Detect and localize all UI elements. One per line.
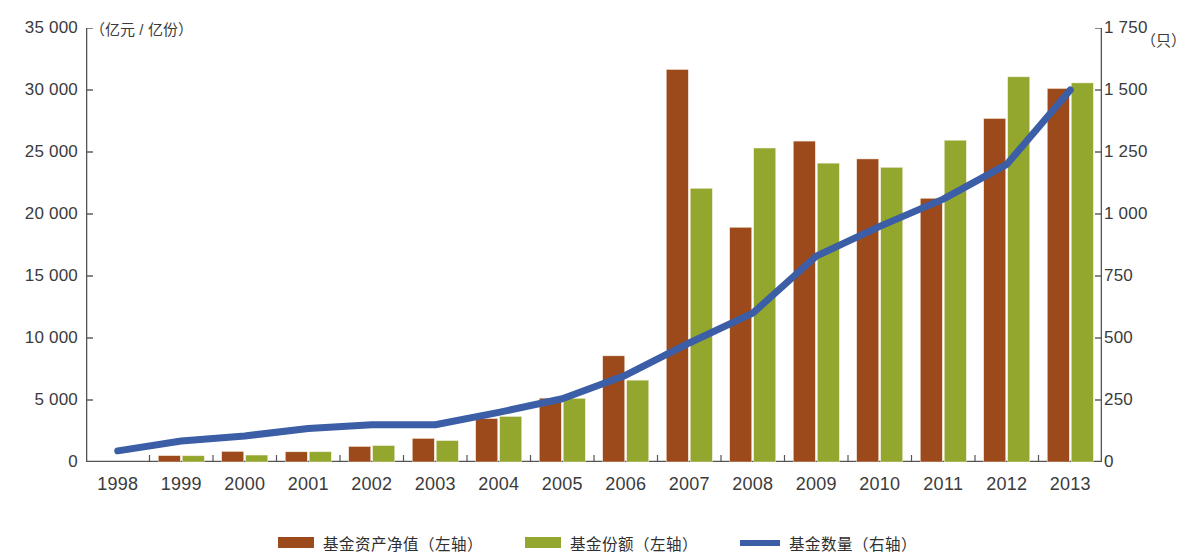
bar-基金份额-2005 <box>563 398 585 462</box>
legend-swatch-bar-icon <box>278 537 314 548</box>
x-label-2006: 2006 <box>605 474 646 495</box>
x-label-2013: 2013 <box>1050 474 1091 495</box>
left-tick-7: 35 000 <box>25 18 78 38</box>
x-label-2002: 2002 <box>351 474 392 495</box>
bar-基金资产净值-2001 <box>285 452 307 462</box>
bar-基金份额-2010 <box>881 167 903 462</box>
bar-基金资产净值-2006 <box>603 356 625 462</box>
left-tick-3: 15 000 <box>25 266 78 286</box>
bar-series-1 <box>182 77 1093 462</box>
legend-label-0: 基金资产净值（左轴） <box>323 532 483 554</box>
bar-基金资产净值-2003 <box>412 438 434 462</box>
legend-swatch-bar-icon <box>525 537 561 548</box>
chart-legend: 基金资产净值（左轴）基金份额（左轴）基金数量（右轴） <box>0 530 1194 555</box>
right-tick-3: 750 <box>1104 266 1133 286</box>
left-tick-1: 5 000 <box>34 390 78 410</box>
bar-基金份额-1999 <box>182 456 204 462</box>
x-label-2007: 2007 <box>669 474 710 495</box>
fund-industry-chart: （亿元 / 亿份） （只） 05 00010 00015 00020 00025… <box>0 0 1194 555</box>
right-tick-5: 1 250 <box>1104 142 1148 162</box>
x-label-2008: 2008 <box>732 474 773 495</box>
bar-基金资产净值-1999 <box>158 456 180 462</box>
legend-item-1[interactable]: 基金份额（左轴） <box>525 532 698 554</box>
bar-基金份额-2007 <box>690 188 712 462</box>
plot-svg <box>86 28 1102 462</box>
bar-series-0 <box>158 70 1069 462</box>
right-tick-7: 1 750 <box>1104 18 1148 38</box>
x-label-2005: 2005 <box>542 474 583 495</box>
right-axis-unit-label: （只） <box>1141 29 1186 50</box>
x-label-1998: 1998 <box>97 474 138 495</box>
bar-基金资产净值-2007 <box>666 70 688 462</box>
legend-swatch-line-icon <box>740 540 780 546</box>
bar-基金资产净值-2009 <box>793 141 815 462</box>
bar-基金份额-2004 <box>500 416 522 462</box>
left-tick-4: 20 000 <box>25 204 78 224</box>
bar-基金资产净值-2010 <box>857 159 879 462</box>
bar-基金份额-2003 <box>436 441 458 462</box>
legend-item-2[interactable]: 基金数量（右轴） <box>740 532 917 554</box>
x-label-2010: 2010 <box>859 474 900 495</box>
legend-label-2: 基金数量（右轴） <box>789 532 917 554</box>
bar-基金资产净值-2005 <box>539 398 561 462</box>
right-tick-6: 1 500 <box>1104 80 1148 100</box>
right-tick-4: 1 000 <box>1104 204 1148 224</box>
x-label-2012: 2012 <box>986 474 1027 495</box>
x-label-2011: 2011 <box>923 474 963 495</box>
x-label-2001: 2001 <box>288 474 329 495</box>
bar-基金资产净值-2011 <box>920 198 942 462</box>
bar-基金份额-2013 <box>1071 83 1093 462</box>
bar-基金资产净值-2008 <box>730 227 752 462</box>
legend-label-1: 基金份额（左轴） <box>570 532 698 554</box>
x-axis-tick-labels: 1998199920002001200220032004200520062007… <box>86 474 1102 504</box>
bar-基金份额-2000 <box>246 455 268 462</box>
bar-基金份额-2012 <box>1008 77 1030 462</box>
plot-area <box>86 28 1102 462</box>
bar-基金资产净值-2013 <box>1047 89 1069 462</box>
right-tick-1: 250 <box>1104 390 1133 410</box>
bar-基金资产净值-2002 <box>349 447 371 463</box>
x-label-2003: 2003 <box>415 474 456 495</box>
right-tick-2: 500 <box>1104 328 1133 348</box>
bar-基金份额-2006 <box>627 380 649 462</box>
x-label-2000: 2000 <box>224 474 265 495</box>
bar-基金份额-2002 <box>373 446 395 462</box>
bar-基金份额-2001 <box>309 452 331 462</box>
right-tick-0: 0 <box>1104 452 1114 472</box>
left-tick-2: 10 000 <box>25 328 78 348</box>
x-label-2009: 2009 <box>796 474 837 495</box>
left-tick-5: 25 000 <box>25 142 78 162</box>
left-tick-6: 30 000 <box>25 80 78 100</box>
bar-基金资产净值-2000 <box>222 451 244 462</box>
x-label-2004: 2004 <box>478 474 519 495</box>
legend-item-0[interactable]: 基金资产净值（左轴） <box>278 532 483 554</box>
x-label-1999: 1999 <box>161 474 202 495</box>
left-tick-0: 0 <box>68 452 78 472</box>
bar-基金资产净值-2004 <box>476 419 498 462</box>
bar-基金份额-2009 <box>817 163 839 462</box>
